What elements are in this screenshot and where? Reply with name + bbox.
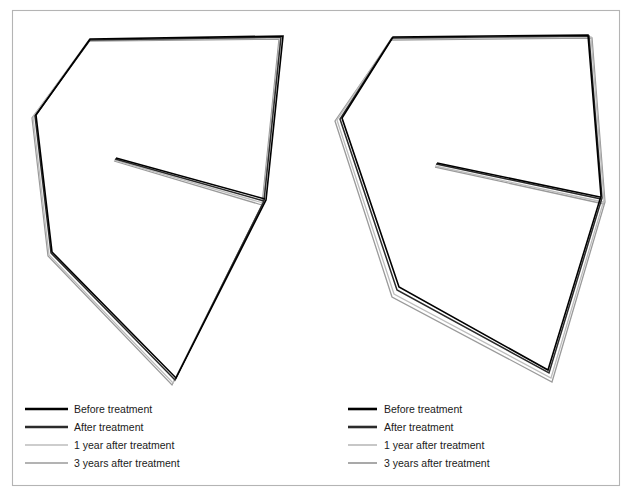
right-panel-traces xyxy=(335,35,605,382)
legend-label-year3: 3 years after treatment xyxy=(384,457,490,469)
legend-label-year3: 3 years after treatment xyxy=(74,457,180,469)
internal-reference-line xyxy=(437,163,600,197)
legend-item-before: Before treatment xyxy=(348,403,462,415)
arch-outline xyxy=(342,35,601,370)
trace-left-0 xyxy=(36,36,283,378)
trace-right-0 xyxy=(342,35,601,370)
figure-root: Before treatmentAfter treatment1 year af… xyxy=(0,0,632,500)
internal-reference-line xyxy=(114,161,262,205)
arch-outline xyxy=(35,37,281,380)
legend-item-year1: 1 year after treatment xyxy=(348,439,484,451)
legend-item-before: Before treatment xyxy=(25,403,152,415)
legend-item-after: After treatment xyxy=(348,421,454,433)
legend-item-year3: 3 years after treatment xyxy=(25,457,180,469)
trace-left-1 xyxy=(35,37,281,380)
legend-label-before: Before treatment xyxy=(74,403,152,415)
arch-outline xyxy=(36,36,283,378)
legend-item-year3: 3 years after treatment xyxy=(348,457,490,469)
trace-left-3 xyxy=(32,39,279,385)
legend-item-after: After treatment xyxy=(25,421,144,433)
right-legend: Before treatmentAfter treatment1 year af… xyxy=(348,403,490,469)
tracing-figure: Before treatmentAfter treatment1 year af… xyxy=(0,0,632,500)
legend-item-year1: 1 year after treatment xyxy=(25,439,174,451)
legend-label-after: After treatment xyxy=(74,421,144,433)
internal-reference-line xyxy=(116,158,265,199)
internal-reference-line xyxy=(435,166,603,202)
legend-label-before: Before treatment xyxy=(384,403,462,415)
internal-reference-line xyxy=(436,164,601,199)
internal-reference-line xyxy=(435,167,604,204)
legend-label-year1: 1 year after treatment xyxy=(74,439,174,451)
internal-reference-line xyxy=(115,159,264,201)
left-legend: Before treatmentAfter treatment1 year af… xyxy=(25,403,180,469)
left-panel-traces xyxy=(32,36,283,385)
arch-outline xyxy=(33,38,280,383)
arch-outline xyxy=(32,39,279,385)
legend-label-year1: 1 year after treatment xyxy=(384,439,484,451)
internal-reference-line xyxy=(114,160,263,203)
legend-label-after: After treatment xyxy=(384,421,454,433)
trace-left-2 xyxy=(33,38,280,383)
